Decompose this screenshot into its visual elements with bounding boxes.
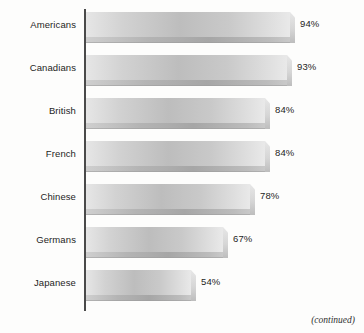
bar-front-face-2 (86, 98, 265, 123)
continued-note: (continued) (311, 315, 355, 325)
table-row: Germans 67% (0, 224, 364, 267)
category-label-1: Canadians (30, 62, 76, 73)
value-label-1: 93% (297, 61, 316, 72)
bar-end-bevel-5 (223, 227, 228, 258)
bar-front-face-0 (86, 12, 290, 37)
table-row: Japanese 54% (0, 267, 364, 310)
value-label-6: 54% (201, 276, 220, 287)
value-label-3: 84% (275, 147, 294, 158)
bar-2 (86, 98, 265, 129)
bar-5 (86, 227, 223, 258)
bar-front-face-1 (86, 55, 287, 80)
bar-end-bevel-6 (191, 270, 196, 301)
bar-6 (86, 270, 191, 301)
category-label-0: Americans (30, 19, 76, 30)
table-row: French 84% (0, 138, 364, 181)
bar-end-bevel-0 (290, 12, 295, 43)
category-label-3: French (46, 148, 76, 159)
bar-1 (86, 55, 287, 86)
category-label-4: Chinese (40, 191, 76, 202)
value-label-2: 84% (275, 104, 294, 115)
value-label-0: 94% (300, 18, 319, 29)
bar-front-face-5 (86, 227, 223, 252)
table-row: Chinese 78% (0, 181, 364, 224)
horizontal-bar-chart: Americans 94% Canadians 93% British 84% (0, 0, 364, 333)
bar-4 (86, 184, 250, 215)
bar-front-face-4 (86, 184, 250, 209)
category-label-6: Japanese (34, 277, 76, 288)
bar-shadow-line-3 (86, 171, 265, 172)
bar-end-bevel-2 (265, 98, 270, 129)
bar-end-bevel-3 (265, 141, 270, 172)
bar-shadow-line-2 (86, 128, 265, 129)
bar-end-bevel-1 (287, 55, 292, 86)
bar-shadow-line-1 (86, 85, 287, 86)
category-label-5: Germans (36, 234, 76, 245)
table-row: Americans 94% (0, 9, 364, 52)
value-label-5: 67% (233, 233, 252, 244)
category-label-2: British (49, 105, 76, 116)
bar-shadow-line-0 (86, 42, 290, 43)
table-row: British 84% (0, 95, 364, 138)
bar-front-face-6 (86, 270, 191, 295)
table-row: Canadians 93% (0, 52, 364, 95)
bar-3 (86, 141, 265, 172)
bar-shadow-line-6 (86, 300, 191, 301)
bar-end-bevel-4 (250, 184, 255, 215)
bar-front-face-3 (86, 141, 265, 166)
value-label-4: 78% (260, 190, 279, 201)
bar-shadow-line-4 (86, 214, 250, 215)
bar-shadow-line-5 (86, 257, 223, 258)
bar-0 (86, 12, 290, 43)
